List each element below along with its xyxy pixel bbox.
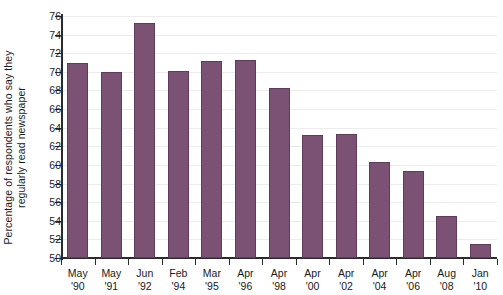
- x-tick-label: Mar'95: [195, 267, 229, 292]
- x-tick-label-year: '02: [329, 280, 363, 293]
- x-tick-label-year: '98: [262, 280, 296, 293]
- x-tick-label: Apr'98: [262, 267, 296, 292]
- x-tick-mark: [262, 259, 263, 265]
- y-axis-ticks: 5052545658606264666870727476: [0, 0, 61, 295]
- x-tick-label-year: '00: [296, 280, 330, 293]
- y-tick-label: 52: [9, 234, 61, 245]
- x-tick-label: Feb'94: [162, 267, 196, 292]
- x-tick-label-year: '96: [229, 280, 263, 293]
- x-tick-label-month: Apr: [262, 267, 296, 280]
- x-tick-mark: [430, 259, 431, 265]
- bar: [336, 134, 357, 258]
- bar: [201, 61, 222, 258]
- x-tick-mark: [128, 259, 129, 265]
- x-tick-mark: [296, 259, 297, 265]
- x-tick-mark: [329, 259, 330, 265]
- x-tick-mark: [396, 259, 397, 265]
- y-tick-label: 62: [9, 141, 61, 152]
- x-tick-label: Apr'02: [329, 267, 363, 292]
- x-tick-label-month: May: [95, 267, 129, 280]
- bars-layer: [61, 16, 497, 258]
- bar: [403, 171, 424, 258]
- y-tick-label: 72: [9, 48, 61, 59]
- y-tick-label: 60: [9, 160, 61, 171]
- bar: [470, 244, 491, 258]
- bar-chart: Percentage of respondents who say they r…: [0, 0, 503, 295]
- x-tick-label-year: '08: [430, 280, 464, 293]
- x-tick-label-month: Jun: [128, 267, 162, 280]
- x-tick-label-month: Aug: [430, 267, 464, 280]
- bar: [302, 135, 323, 258]
- x-tick-mark: [463, 259, 464, 265]
- y-tick-label: 56: [9, 197, 61, 208]
- y-tick-label: 76: [9, 11, 61, 22]
- x-tick-label-month: Feb: [162, 267, 196, 280]
- y-tick-label: 74: [9, 30, 61, 41]
- x-tick-label: Apr'06: [396, 267, 430, 292]
- x-tick-mark: [497, 259, 498, 265]
- x-tick-label: May'91: [95, 267, 129, 292]
- x-tick-label-year: '90: [61, 280, 95, 293]
- bar: [101, 72, 122, 258]
- x-tick-label: Apr'04: [363, 267, 397, 292]
- x-tick-label: May'90: [61, 267, 95, 292]
- x-tick-label: Jun'92: [128, 267, 162, 292]
- y-tick-label: 54: [9, 216, 61, 227]
- bar: [168, 71, 189, 258]
- x-tick-label-month: Apr: [363, 267, 397, 280]
- bar: [369, 162, 390, 258]
- x-tick-mark: [363, 259, 364, 265]
- y-tick-label: 64: [9, 123, 61, 134]
- x-tick-label: Aug'08: [430, 267, 464, 292]
- x-tick-mark: [95, 259, 96, 265]
- x-tick-label: Jan'10: [463, 267, 497, 292]
- x-tick-label-year: '92: [128, 280, 162, 293]
- x-tick-mark: [61, 259, 62, 265]
- x-axis-ticks: May'90May'91Jun'92Feb'94Mar'95Apr'96Apr'…: [61, 259, 497, 295]
- bar: [269, 88, 290, 258]
- x-tick-label: Apr'96: [229, 267, 263, 292]
- x-tick-label-year: '10: [463, 280, 497, 293]
- bar: [436, 216, 457, 258]
- x-tick-mark: [195, 259, 196, 265]
- x-tick-label-month: Apr: [296, 267, 330, 280]
- x-tick-label: Apr'00: [296, 267, 330, 292]
- x-tick-mark: [162, 259, 163, 265]
- bar: [134, 23, 155, 258]
- y-tick-label: 58: [9, 179, 61, 190]
- y-tick-label: 70: [9, 67, 61, 78]
- x-tick-label-month: Jan: [463, 267, 497, 280]
- x-tick-label-year: '04: [363, 280, 397, 293]
- x-tick-label-year: '91: [95, 280, 129, 293]
- x-tick-label-month: May: [61, 267, 95, 280]
- x-tick-label-year: '06: [396, 280, 430, 293]
- y-tick-label: 50: [9, 253, 61, 264]
- bar: [67, 63, 88, 258]
- y-tick-label: 66: [9, 104, 61, 115]
- bar: [235, 60, 256, 258]
- x-tick-label-year: '95: [195, 280, 229, 293]
- y-tick-label: 68: [9, 85, 61, 96]
- x-tick-label-month: Apr: [329, 267, 363, 280]
- x-tick-label-year: '94: [162, 280, 196, 293]
- x-tick-label-month: Apr: [396, 267, 430, 280]
- x-tick-label-month: Mar: [195, 267, 229, 280]
- x-tick-mark: [229, 259, 230, 265]
- x-tick-label-month: Apr: [229, 267, 263, 280]
